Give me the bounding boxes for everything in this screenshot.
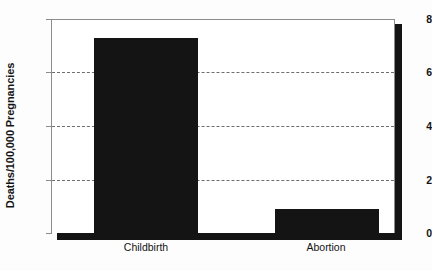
y-tick-mark-6 — [46, 72, 51, 73]
y-tick-label-8: 8 — [390, 13, 432, 25]
x-tick-label-abortion: Abortion — [306, 241, 345, 253]
bar-abortion — [275, 209, 379, 233]
y-tick-mark-8 — [46, 19, 51, 20]
y-axis-title: Deaths/100,000 Pregnancies — [0, 0, 26, 271]
bar-chart: Deaths/100,000 Pregnancies 8 6 4 2 0 Chi… — [0, 0, 432, 271]
x-tick-label-childbirth: Childbirth — [124, 241, 168, 253]
y-tick-label-0: 0 — [390, 227, 432, 239]
y-tick-mark-0 — [46, 233, 51, 234]
y-tick-label-4: 4 — [390, 120, 432, 132]
y-tick-label-6: 6 — [390, 66, 432, 78]
plot-frame-shadow-bottom — [57, 233, 402, 240]
y-tick-mark-2 — [46, 180, 51, 181]
y-tick-mark-4 — [46, 126, 51, 127]
bar-childbirth — [94, 38, 198, 233]
plot-frame-shadow-right — [395, 24, 402, 240]
y-tick-label-2: 2 — [390, 174, 432, 186]
